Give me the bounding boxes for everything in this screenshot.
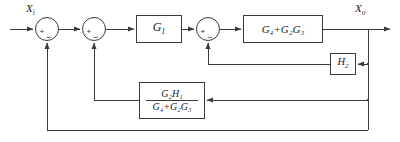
junction-dot-h2	[367, 63, 370, 66]
block-forward-path-label: G₄+G₂G₃	[262, 24, 305, 35]
block-h2[interactable]: H2	[330, 53, 356, 75]
output-signal-label: Xo	[355, 2, 365, 17]
block-forward-path[interactable]: G₄+G₂G₃	[243, 15, 323, 43]
block-diagram: + − + − + − G1 G₄+G₂G₃ H2 G₂H₁ G₄+G₂G₃ X…	[0, 0, 400, 142]
sum1-minus-sign: −	[46, 33, 51, 42]
block-fraction-feedback[interactable]: G₂H₁ G₄+G₂G₃	[139, 82, 205, 119]
wire-h2-to-sum3	[208, 43, 330, 64]
wire-fraction-to-sum2	[94, 43, 139, 100]
block-h2-label: H2	[337, 57, 348, 70]
block-g1[interactable]: G1	[136, 15, 182, 43]
fraction-expression: G₂H₁ G₄+G₂G₃	[146, 89, 198, 113]
sum1-plus-sign: +	[40, 28, 45, 36]
fraction-numerator: G₂H₁	[159, 89, 184, 101]
junction-dot-fraction	[367, 99, 370, 102]
sum3-minus-sign: −	[207, 33, 212, 42]
input-signal-label: Xi	[26, 2, 35, 17]
sum2-plus-sign: +	[87, 28, 92, 36]
summing-junction-1[interactable]: + −	[35, 17, 59, 41]
sum2-minus-sign: −	[93, 33, 98, 42]
summing-junction-2[interactable]: + −	[82, 17, 106, 41]
summing-junction-3[interactable]: + −	[196, 17, 220, 41]
fraction-denominator: G₄+G₂G₃	[151, 101, 194, 113]
sum3-plus-sign: +	[201, 28, 206, 36]
block-g1-label: G1	[153, 21, 166, 37]
